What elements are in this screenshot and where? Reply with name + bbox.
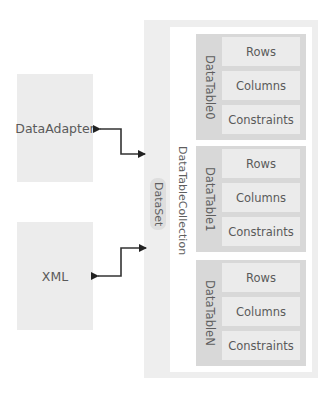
connector-arrows: [0, 0, 335, 396]
xml-dataset-arrow: [98, 248, 146, 276]
dataadapter-dataset-arrow: [100, 129, 145, 154]
